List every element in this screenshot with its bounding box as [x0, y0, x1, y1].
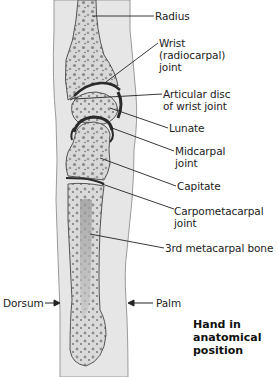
label-articular-disc: Articular disc of wrist joint: [163, 88, 230, 112]
palm-arrow: [128, 300, 153, 306]
label-carpometacarpal-joint: Carpometacarpal joint: [174, 205, 263, 229]
label-wrist-joint: Wrist (radiocarpal) joint: [159, 37, 225, 73]
label-capitate: Capitate: [177, 180, 221, 192]
label-radius: Radius: [155, 10, 190, 22]
label-lunate: Lunate: [169, 122, 204, 134]
label-palm: Palm: [156, 297, 181, 309]
figure-caption: Hand in anatomical position: [193, 318, 261, 357]
wrist-sagittal-section-figure: Radius Wrist (radiocarpal) joint Articul…: [0, 0, 278, 377]
label-dorsum: Dorsum: [3, 297, 44, 309]
label-midcarpal-joint: Midcarpal joint: [175, 145, 225, 169]
label-third-metacarpal: 3rd metacarpal bone: [165, 242, 273, 254]
dorsum-arrow: [45, 300, 60, 306]
